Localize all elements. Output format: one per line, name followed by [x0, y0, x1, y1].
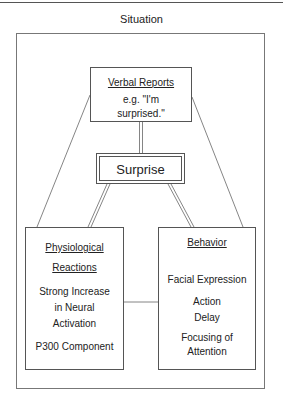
example-line: surprised." [91, 107, 191, 121]
behavior-item-action-delay: Action Delay [159, 294, 255, 326]
physiological-item-p300: P300 Component [26, 341, 123, 352]
line-surprise-physio-a [88, 184, 107, 227]
physiological-reactions-box: Physiological Reactions Strong Increase … [25, 227, 124, 370]
line-surprise-physio-b [91, 184, 110, 227]
heading-line: Reactions [26, 258, 123, 278]
line-surprise-behavior-b [171, 184, 194, 227]
item-line: Action [159, 294, 255, 310]
physiological-item-neural: Strong Increase in Neural Activation [26, 284, 123, 332]
behavior-item-attention: Focusing of Attention [159, 331, 255, 359]
behavior-box: Behavior Facial Expression Action Delay … [158, 227, 256, 370]
item-line: Delay [159, 310, 255, 326]
line-verbal-behavior [192, 97, 243, 227]
line-surprise-behavior-a [168, 184, 191, 227]
item-line: Focusing of [159, 331, 255, 345]
line-verbal-physio [37, 95, 90, 227]
behavior-heading: Behavior [159, 237, 255, 248]
verbal-reports-box: Verbal Reports e.g. "I'm surprised." [90, 67, 192, 122]
physiological-heading: Physiological Reactions [26, 238, 123, 278]
surprise-label: Surprise [99, 156, 182, 181]
behavior-item-facial: Facial Expression [159, 274, 255, 285]
heading-line: Physiological [26, 238, 123, 258]
verbal-reports-heading: Verbal Reports [91, 77, 191, 88]
item-line: Activation [26, 316, 123, 332]
example-line: e.g. "I'm [91, 93, 191, 107]
item-line: in Neural [26, 300, 123, 316]
verbal-reports-example: e.g. "I'm surprised." [91, 93, 191, 121]
item-line: Strong Increase [26, 284, 123, 300]
surprise-box: Surprise [96, 153, 185, 184]
item-line: Attention [159, 345, 255, 359]
